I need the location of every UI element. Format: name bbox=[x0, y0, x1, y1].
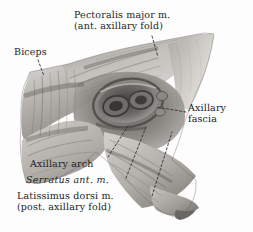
label-axillary-arch-line1: Axillary arch bbox=[30, 159, 94, 170]
label-biceps-line1: Biceps bbox=[14, 47, 47, 58]
label-latissimus-line2: (post. axillary fold) bbox=[17, 203, 114, 214]
tail-hook-tip bbox=[175, 210, 196, 220]
label-axillary-fascia-line2: fascia bbox=[188, 115, 226, 126]
label-serratus-anterior: Serratus ant. m. bbox=[26, 176, 109, 187]
label-pectoralis-line2: (ant. axillary fold) bbox=[74, 22, 170, 33]
label-pectoralis-major: Pectoralis major m. (ant. axillary fold) bbox=[74, 11, 170, 32]
label-pectoralis-line1: Pectoralis major m. bbox=[74, 10, 170, 21]
label-serratus-line1: Serratus ant. m. bbox=[26, 175, 109, 186]
label-axillary-fascia: Axillary fascia bbox=[188, 104, 226, 125]
anatomical-figure: Pectoralis major m. (ant. axillary fold)… bbox=[0, 0, 253, 232]
label-biceps: Biceps bbox=[14, 48, 47, 59]
label-axillary-arch: Axillary arch bbox=[30, 160, 94, 171]
label-axillary-fascia-line1: Axillary bbox=[188, 103, 226, 114]
label-latissimus-dorsi: Latissimus dorsi m. (post. axillary fold… bbox=[17, 192, 114, 213]
label-latissimus-line1: Latissimus dorsi m. bbox=[17, 191, 114, 202]
